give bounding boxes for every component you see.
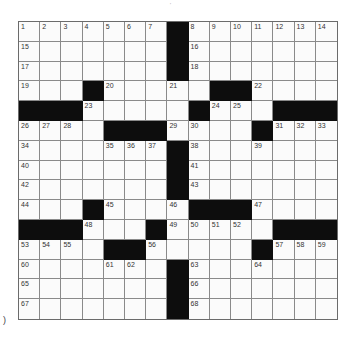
grid-cell[interactable]	[125, 161, 146, 181]
grid-cell[interactable]	[273, 141, 294, 161]
grid-cell[interactable]: 2	[40, 22, 61, 42]
grid-cell[interactable]	[125, 220, 146, 240]
grid-cell[interactable]	[231, 240, 252, 260]
grid-cell[interactable]	[104, 101, 125, 121]
grid-cell[interactable]	[252, 161, 273, 181]
grid-cell[interactable]	[83, 161, 104, 181]
grid-cell[interactable]	[231, 180, 252, 200]
grid-cell[interactable]	[252, 299, 273, 319]
grid-cell[interactable]	[295, 161, 316, 181]
grid-cell[interactable]	[252, 42, 273, 62]
grid-cell[interactable]: 23	[83, 101, 104, 121]
grid-cell[interactable]	[231, 161, 252, 181]
grid-cell[interactable]	[61, 81, 82, 101]
grid-cell[interactable]	[83, 299, 104, 319]
grid-cell[interactable]	[295, 279, 316, 299]
grid-cell[interactable]: 32	[295, 121, 316, 141]
grid-cell[interactable]	[61, 141, 82, 161]
grid-cell[interactable]	[189, 81, 210, 101]
grid-cell[interactable]: 5	[104, 22, 125, 42]
grid-cell[interactable]	[295, 180, 316, 200]
grid-cell[interactable]: 37	[146, 141, 167, 161]
grid-cell[interactable]	[231, 62, 252, 82]
grid-cell[interactable]	[316, 161, 337, 181]
grid-cell[interactable]: 12	[273, 22, 294, 42]
grid-cell[interactable]: 17	[19, 62, 40, 82]
grid-cell[interactable]	[273, 42, 294, 62]
grid-cell[interactable]	[40, 299, 61, 319]
grid-cell[interactable]: 18	[189, 62, 210, 82]
grid-cell[interactable]	[83, 62, 104, 82]
grid-cell[interactable]: 43	[189, 180, 210, 200]
grid-cell[interactable]: 16	[189, 42, 210, 62]
grid-cell[interactable]	[61, 279, 82, 299]
grid-cell[interactable]	[252, 279, 273, 299]
grid-cell[interactable]	[61, 200, 82, 220]
grid-cell[interactable]	[295, 81, 316, 101]
grid-cell[interactable]	[273, 200, 294, 220]
grid-cell[interactable]	[146, 260, 167, 280]
grid-cell[interactable]	[273, 161, 294, 181]
grid-cell[interactable]: 34	[19, 141, 40, 161]
grid-cell[interactable]: 14	[316, 22, 337, 42]
grid-cell[interactable]	[295, 260, 316, 280]
grid-cell[interactable]: 6	[125, 22, 146, 42]
grid-cell[interactable]: 67	[19, 299, 40, 319]
grid-cell[interactable]: 40	[19, 161, 40, 181]
grid-cell[interactable]: 56	[146, 240, 167, 260]
grid-cell[interactable]	[231, 42, 252, 62]
grid-cell[interactable]: 20	[104, 81, 125, 101]
grid-cell[interactable]: 26	[19, 121, 40, 141]
grid-cell[interactable]: 55	[61, 240, 82, 260]
grid-cell[interactable]	[104, 62, 125, 82]
grid-cell[interactable]	[61, 62, 82, 82]
grid-cell[interactable]	[83, 42, 104, 62]
grid-cell[interactable]: 54	[40, 240, 61, 260]
grid-cell[interactable]	[295, 200, 316, 220]
grid-cell[interactable]	[146, 161, 167, 181]
grid-cell[interactable]	[316, 279, 337, 299]
grid-cell[interactable]	[210, 121, 231, 141]
grid-cell[interactable]	[273, 81, 294, 101]
grid-cell[interactable]	[125, 279, 146, 299]
grid-cell[interactable]	[125, 180, 146, 200]
grid-cell[interactable]	[231, 299, 252, 319]
grid-cell[interactable]: 3	[61, 22, 82, 42]
grid-cell[interactable]	[61, 260, 82, 280]
grid-cell[interactable]	[40, 180, 61, 200]
grid-cell[interactable]	[273, 260, 294, 280]
grid-cell[interactable]: 49	[167, 220, 188, 240]
grid-cell[interactable]	[125, 101, 146, 121]
grid-cell[interactable]: 68	[189, 299, 210, 319]
grid-cell[interactable]	[146, 200, 167, 220]
grid-cell[interactable]	[210, 42, 231, 62]
grid-cell[interactable]	[146, 42, 167, 62]
grid-cell[interactable]	[273, 279, 294, 299]
grid-cell[interactable]	[146, 299, 167, 319]
grid-cell[interactable]: 59	[316, 240, 337, 260]
grid-cell[interactable]	[146, 279, 167, 299]
grid-cell[interactable]	[83, 279, 104, 299]
grid-cell[interactable]	[40, 200, 61, 220]
grid-cell[interactable]	[316, 299, 337, 319]
grid-cell[interactable]	[316, 180, 337, 200]
grid-cell[interactable]: 35	[104, 141, 125, 161]
grid-cell[interactable]	[61, 42, 82, 62]
grid-cell[interactable]	[273, 180, 294, 200]
grid-cell[interactable]: 25	[231, 101, 252, 121]
grid-cell[interactable]	[83, 240, 104, 260]
grid-cell[interactable]	[146, 81, 167, 101]
grid-cell[interactable]	[83, 141, 104, 161]
grid-cell[interactable]	[104, 299, 125, 319]
grid-cell[interactable]	[210, 141, 231, 161]
grid-cell[interactable]: 29	[167, 121, 188, 141]
grid-cell[interactable]	[210, 240, 231, 260]
grid-cell[interactable]: 46	[167, 200, 188, 220]
grid-cell[interactable]: 22	[252, 81, 273, 101]
grid-cell[interactable]	[61, 180, 82, 200]
grid-cell[interactable]	[104, 42, 125, 62]
grid-cell[interactable]	[231, 121, 252, 141]
grid-cell[interactable]	[252, 220, 273, 240]
grid-cell[interactable]	[273, 299, 294, 319]
grid-cell[interactable]	[40, 81, 61, 101]
